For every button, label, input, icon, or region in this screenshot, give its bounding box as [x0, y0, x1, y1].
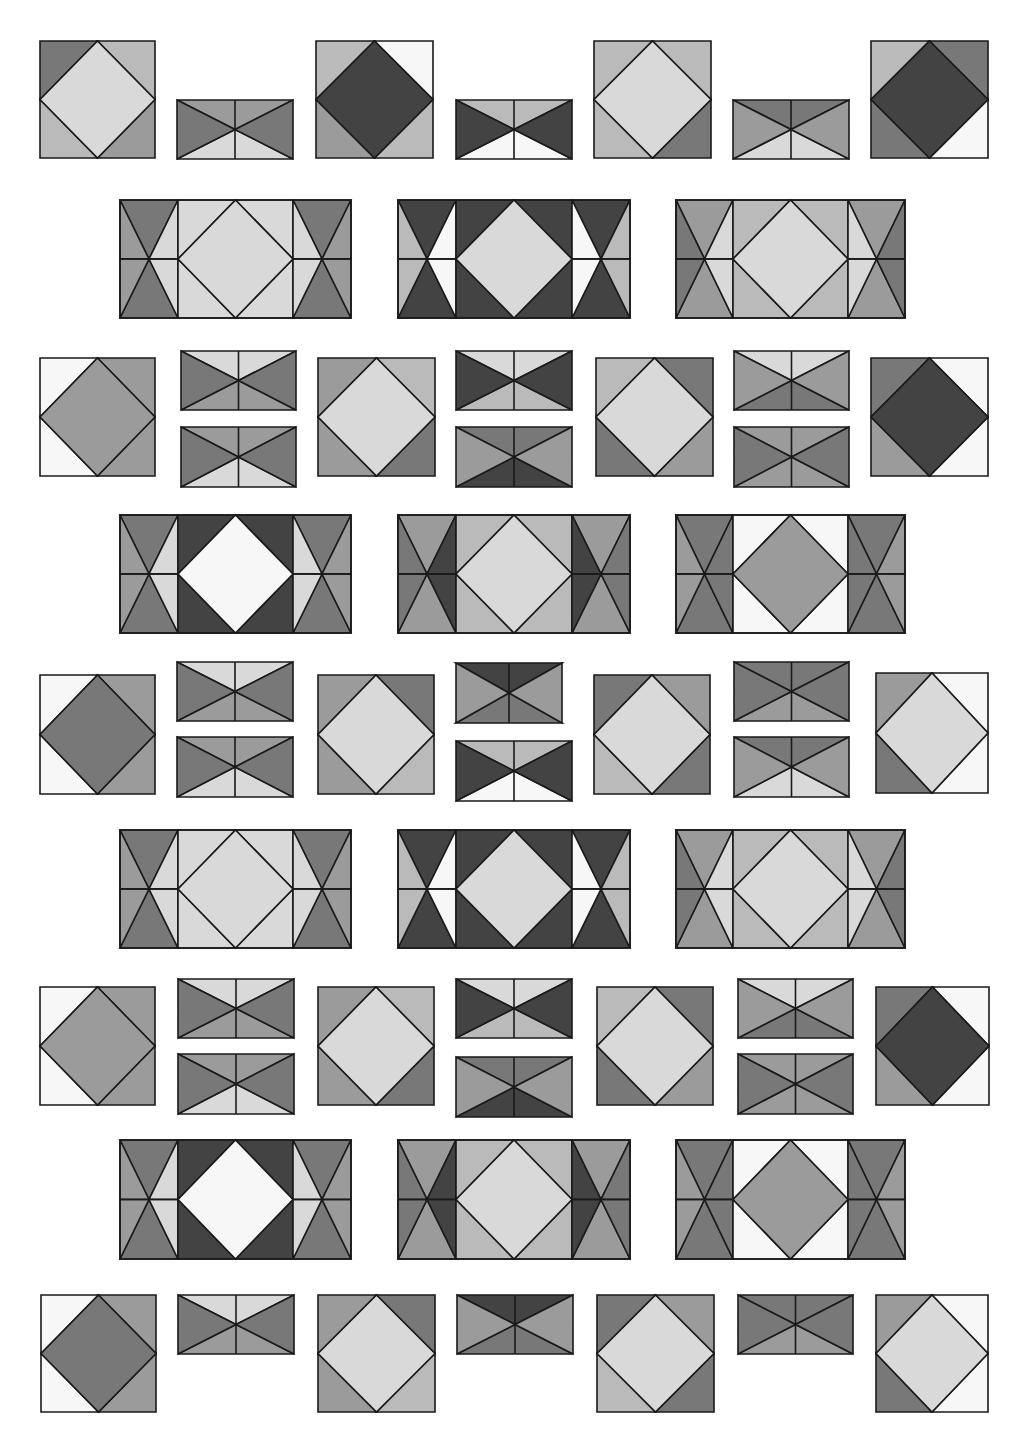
- hourglass-rectangle-block: [178, 979, 294, 1038]
- square-in-square-block: [876, 987, 989, 1105]
- combined-star-block: [120, 1140, 351, 1259]
- hourglass-rectangle-block: [456, 100, 572, 159]
- hourglass-rectangle-block: [734, 662, 849, 721]
- combined-star-block: [676, 515, 905, 633]
- hourglass-rectangle-block: [177, 737, 293, 797]
- square-in-square-block: [596, 358, 713, 476]
- square-in-square-block: [40, 675, 155, 794]
- square-in-square-block: [318, 1295, 435, 1412]
- hourglass-rectangle-block: [733, 100, 849, 159]
- hourglass-rectangle-block: [178, 1295, 294, 1354]
- hourglass-rectangle-block: [734, 737, 849, 797]
- square-in-square-block: [876, 673, 988, 793]
- hourglass-rectangle-block: [178, 1054, 294, 1114]
- hourglass-rectangle-block: [734, 427, 849, 487]
- hourglass-rectangle-block: [456, 351, 572, 410]
- hourglass-rectangle-block: [738, 1054, 853, 1114]
- square-in-square-block: [876, 1295, 988, 1412]
- hourglass-rectangle-block: [177, 662, 293, 721]
- combined-star-block: [398, 200, 630, 318]
- combined-star-block: [120, 830, 351, 948]
- hourglass-rectangle-block: [456, 979, 572, 1038]
- combined-star-block: [676, 1140, 905, 1259]
- combined-star-block: [398, 830, 630, 948]
- hourglass-rectangle-block: [181, 427, 296, 487]
- hourglass-rectangle-block: [738, 1295, 853, 1354]
- combined-star-block: [120, 200, 351, 318]
- square-in-square-block: [597, 1295, 714, 1412]
- square-in-square-block: [318, 358, 435, 476]
- hourglass-rectangle-block: [456, 427, 572, 487]
- square-in-square-block: [318, 987, 434, 1105]
- square-in-square-block: [594, 41, 711, 158]
- combined-star-block: [676, 830, 905, 948]
- hourglass-rectangle-block: [177, 100, 293, 159]
- square-in-square-block: [40, 41, 155, 158]
- square-in-square-block: [597, 987, 713, 1105]
- square-in-square-block: [318, 675, 434, 794]
- hourglass-rectangle-block: [456, 663, 562, 723]
- combined-star-block: [676, 200, 905, 318]
- square-in-square-block: [316, 41, 433, 158]
- hourglass-rectangle-block: [457, 1295, 573, 1354]
- square-in-square-block: [871, 41, 988, 158]
- square-in-square-block: [871, 358, 988, 476]
- hourglass-rectangle-block: [734, 351, 849, 410]
- square-in-square-block: [40, 358, 155, 476]
- hourglass-rectangle-block: [456, 1057, 572, 1117]
- quilt-pattern-diagram: [0, 0, 1023, 1455]
- combined-star-block: [120, 515, 351, 633]
- square-in-square-block: [41, 1295, 156, 1412]
- combined-star-block: [398, 515, 630, 633]
- hourglass-rectangle-block: [456, 741, 572, 801]
- hourglass-rectangle-block: [181, 351, 296, 410]
- hourglass-rectangle-block: [738, 979, 853, 1038]
- square-in-square-block: [594, 675, 710, 794]
- combined-star-block: [398, 1140, 630, 1259]
- square-in-square-block: [40, 987, 155, 1105]
